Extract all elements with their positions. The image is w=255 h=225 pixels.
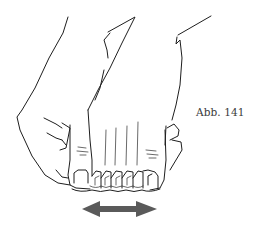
foot-toes-drawing	[68, 110, 166, 192]
right-hand-drawing	[165, 16, 211, 170]
left-hand-drawing	[17, 17, 70, 185]
double-arrow-icon	[82, 201, 157, 217]
middle-hand-drawing	[88, 17, 135, 110]
illustration-figure: Abb. 141	[0, 0, 255, 225]
figure-caption: Abb. 141	[196, 106, 245, 118]
